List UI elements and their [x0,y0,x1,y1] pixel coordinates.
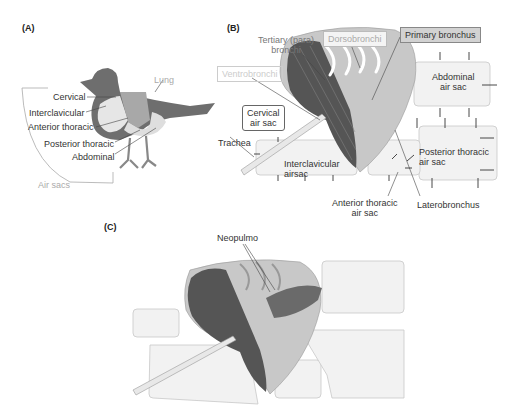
label-primary-bronchus: Primary bronchus [400,27,481,43]
label-neopulmo: Neopulmo [217,233,258,243]
label-dorsobronchi: Dorsobronchi [323,31,387,47]
label-posterior-line1: Posterior thoracic [419,147,489,157]
label-interclavicular-airsac: Interclavicular airsac [284,159,340,179]
label-lung: Lung [154,75,174,85]
label-laterobronchus: Laterobronchus [417,200,480,210]
label-tertiary-line2: bronchi [258,45,314,55]
label-tertiary-bronchi: Tertiary (para) bronchi [258,35,314,55]
label-tertiary-line1: Tertiary (para) [258,35,314,45]
label-posterior-thoracic-air-sac: Posterior thoracic air sac [419,147,489,167]
label-posterior-thoracic: Posterior thoracic [44,139,114,149]
label-trachea: Trachea [218,138,251,148]
label-posterior-line2: air sac [419,157,489,167]
label-ventrobronchi: Ventrobronchi [217,66,283,82]
label-interclavicular: Interclavicular [29,108,85,118]
label-air-sacs: Air sacs [38,180,70,190]
label-interclavicular-line1: Interclavicular [284,159,340,169]
label-cervical: Cervical [53,92,86,102]
label-abdominal-line2: air sac [432,82,475,92]
label-cervical-air-sac: Cervical air sac [242,105,285,131]
panel-b-label: (B) [227,23,240,33]
label-abdominal: Abdominal [72,152,115,162]
label-interclavicular-line2: airsac [284,169,340,179]
label-anterior-line1: Anterior thoracic [332,198,398,208]
label-cervical-line2: air sac [247,118,280,128]
label-cervical-line1: Cervical [247,108,280,118]
label-abdominal-line1: Abdominal [432,72,475,82]
panel-c-label: (C) [104,222,117,232]
label-anterior-thoracic-air-sac: Anterior thoracic air sac [332,198,398,218]
label-anterior-thoracic: Anterior thoracic [28,122,94,132]
label-anterior-line2: air sac [332,208,398,218]
label-abdominal-air-sac: Abdominal air sac [432,72,475,92]
